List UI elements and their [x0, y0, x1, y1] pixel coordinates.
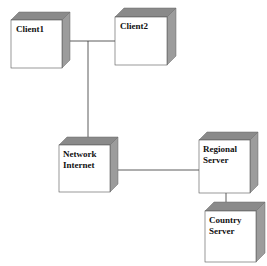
- label-line: Network: [63, 149, 97, 160]
- node-label-client1: Client1: [16, 24, 44, 35]
- node-client2[interactable]: [115, 8, 176, 65]
- node-client1[interactable]: [11, 12, 70, 68]
- node-label-network-internet: Network Internet: [63, 149, 97, 171]
- label-line: Country: [209, 215, 242, 226]
- node-label-client2: Client2: [120, 21, 148, 32]
- node-top: [205, 202, 265, 211]
- node-top: [199, 132, 258, 140]
- label-line: Client2: [120, 21, 148, 31]
- node-side: [256, 202, 265, 262]
- node-side: [167, 8, 176, 65]
- node-top: [59, 137, 118, 145]
- node-side: [250, 132, 258, 193]
- label-line: Server: [209, 226, 242, 237]
- label-line: Regional: [203, 144, 237, 155]
- node-side: [62, 12, 70, 68]
- node-label-regional-server: Regional Server: [203, 144, 237, 166]
- node-side: [110, 137, 118, 192]
- label-line: Internet: [63, 160, 97, 171]
- label-line: Client1: [16, 24, 44, 34]
- node-label-country-server: Country Server: [209, 215, 242, 237]
- label-line: Server: [203, 155, 237, 166]
- node-top: [115, 8, 176, 17]
- node-top: [11, 12, 70, 20]
